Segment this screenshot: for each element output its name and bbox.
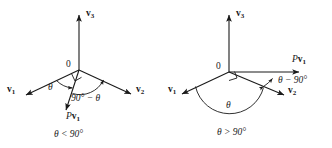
- angle-label-excess-right: θ − 90°: [278, 76, 307, 86]
- diagram-panel-left: 0 v3 v1 v2 Pv1 θ 90° − θ θ < 90°: [0, 0, 166, 148]
- angle-arc-theta: [57, 81, 73, 89]
- diagram-panel-right: 0 v3 v1 v2 Pv1 θ θ − 90° θ > 90°: [166, 0, 332, 148]
- angle-arc-excess: [264, 79, 273, 87]
- figure-root: 0 v3 v1 v2 Pv1 θ 90° − θ θ < 90°: [0, 0, 332, 148]
- axis-label-v2-right: v2: [288, 86, 296, 97]
- axis-label-v2-left: v2: [136, 85, 144, 96]
- axis-label-v1-right: v1: [168, 85, 176, 96]
- diagram-right-graphics: [166, 0, 332, 148]
- axis-label-v3-left: v3: [86, 9, 94, 20]
- caption-left: θ < 90°: [54, 130, 83, 140]
- axis-label-v3-right: v3: [236, 9, 244, 20]
- axis-v2-line: [79, 70, 131, 94]
- projection-label-left: Pv1: [66, 112, 80, 123]
- diagram-left-graphics: [0, 0, 166, 148]
- angle-label-complement-left: 90° − θ: [71, 94, 100, 104]
- caption-right: θ > 90°: [217, 128, 246, 138]
- origin-label-left: 0: [66, 60, 71, 70]
- axis-v2-line: [229, 72, 284, 95]
- projection-label-right: Pv1: [292, 55, 306, 66]
- axis-label-v1-left: v1: [7, 85, 15, 96]
- angle-label-theta-left: θ: [48, 83, 53, 93]
- axis-v1-line: [182, 72, 229, 94]
- origin-label-right: 0: [216, 62, 221, 72]
- angle-label-theta-right: θ: [226, 101, 231, 111]
